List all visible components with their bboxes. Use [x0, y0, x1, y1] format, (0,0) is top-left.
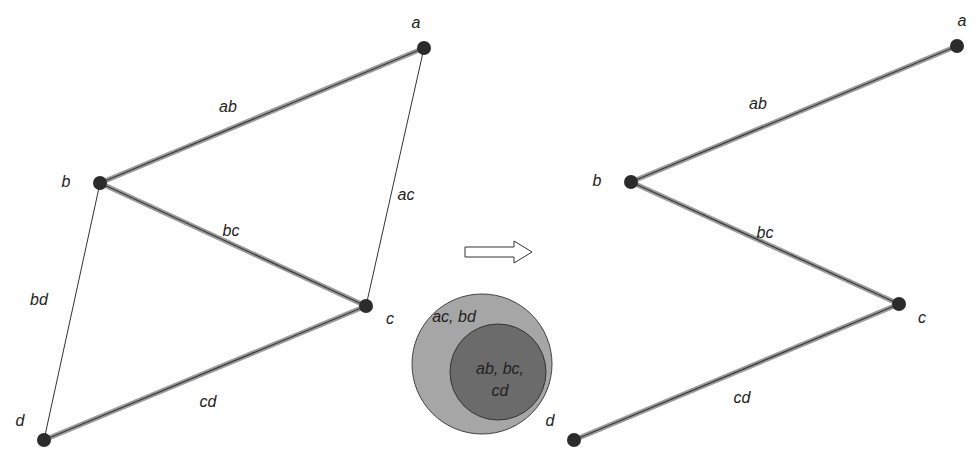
- edge-label-ab: ab: [219, 98, 237, 115]
- node-dot: [950, 39, 964, 53]
- spanning-tree-graph: abbccdabcd: [546, 12, 967, 447]
- edge-line: [100, 183, 366, 306]
- node-label-d: d: [16, 412, 26, 429]
- edge-line: [574, 304, 899, 440]
- node-c: c: [892, 297, 926, 326]
- edge-bd: bd: [30, 183, 100, 440]
- inner-set-label-line2: cd: [492, 382, 510, 399]
- node-label-a: a: [958, 12, 967, 29]
- edge-line: [100, 48, 424, 183]
- node-dot: [417, 41, 431, 55]
- node-d: d: [546, 412, 581, 447]
- edge-line: [631, 46, 957, 182]
- node-d: d: [16, 412, 51, 447]
- outer-set-label: ac, bd: [432, 308, 477, 325]
- edge-ac: ac: [366, 48, 424, 306]
- edge-ab: ab: [631, 46, 957, 182]
- node-b: b: [593, 172, 638, 189]
- nested-set-venn: ac, bdab, bc,cd: [412, 294, 552, 434]
- node-b: b: [62, 173, 107, 190]
- edge-cd: cd: [574, 304, 899, 440]
- edge-bc: bc: [631, 182, 899, 304]
- node-label-b: b: [593, 172, 602, 189]
- node-dot: [359, 299, 373, 313]
- node-label-a: a: [412, 14, 421, 31]
- inner-set-label-line1: ab, bc,: [476, 360, 524, 377]
- edge-line: [631, 182, 899, 304]
- edge-ab: ab: [100, 48, 424, 183]
- edge-label-bc: bc: [757, 224, 774, 241]
- edge-line: [366, 48, 424, 306]
- node-dot: [93, 176, 107, 190]
- edge-label-ac: ac: [398, 186, 415, 203]
- node-label-b: b: [62, 173, 71, 190]
- node-dot: [567, 433, 581, 447]
- edge-line: [44, 183, 100, 440]
- node-a: a: [412, 14, 431, 55]
- transform-arrow-icon: [465, 241, 532, 263]
- node-a: a: [950, 12, 967, 53]
- node-c: c: [359, 299, 394, 327]
- edge-label-bd: bd: [30, 291, 49, 308]
- node-label-d: d: [546, 412, 556, 429]
- edge-label-bc: bc: [223, 222, 240, 239]
- edge-line: [44, 306, 366, 440]
- node-dot: [892, 297, 906, 311]
- edge-label-cd: cd: [734, 389, 752, 406]
- node-dot: [624, 175, 638, 189]
- node-dot: [37, 433, 51, 447]
- node-label-c: c: [386, 310, 394, 327]
- original-graph: abbccdacbdabcd: [16, 14, 431, 447]
- edge-label-ab: ab: [749, 95, 767, 112]
- node-label-c: c: [918, 309, 926, 326]
- graph-transformation-diagram: abbccdacbdabcdabbccdabcdac, bdab, bc,cd: [0, 0, 975, 466]
- edge-bc: bc: [100, 183, 366, 306]
- edge-cd: cd: [44, 306, 366, 440]
- edge-label-cd: cd: [200, 393, 218, 410]
